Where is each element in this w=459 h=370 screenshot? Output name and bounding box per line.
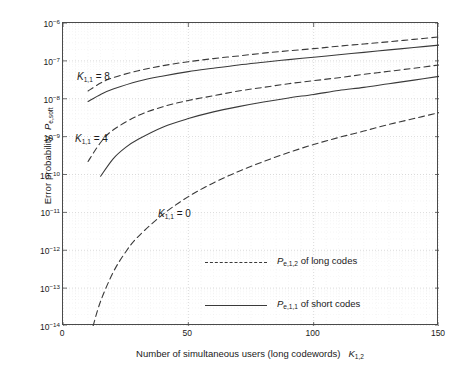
x-axis-label-subscript: 1,2 [355, 353, 364, 360]
annotation-k11-4: K1,1 = 4 [75, 133, 108, 145]
annotation-subscript: 1,1 [84, 76, 93, 83]
legend-text: of long codes [301, 255, 358, 266]
legend-subscript: e,1,1 [283, 303, 298, 310]
x-axis-label-text: Number of simultaneous users (long codew… [136, 348, 340, 359]
chart-svg [63, 23, 439, 326]
annotation-value: = 0 [177, 208, 191, 219]
y-tick-label: 10−13 [24, 282, 60, 294]
x-tick-label: 50 [167, 328, 207, 338]
annotation-symbol: K [158, 208, 165, 219]
legend-subscript: e,1,2 [283, 260, 298, 267]
y-tick-label: 10−9 [24, 131, 60, 143]
curve-dashed [88, 37, 439, 91]
x-axis-label: Number of simultaneous users (long codew… [62, 348, 438, 360]
legend-text: of short codes [301, 298, 361, 309]
plot-area: K1,1 = 8 K1,1 = 4 K1,1 = 0 Pe,1,2 of lon… [62, 22, 438, 325]
x-tick-label: 150 [418, 328, 458, 338]
y-tick-label: 10−8 [24, 93, 60, 105]
y-tick-label: 10−12 [24, 244, 60, 256]
y-tick-labels: 10−610−710−810−910−1010−1110−1210−1310−1… [16, 0, 60, 303]
annotation-symbol: K [75, 133, 82, 144]
y-tick-label: 10−7 [24, 55, 60, 67]
y-tick-label: 10−11 [24, 206, 60, 218]
annotation-symbol: K [77, 71, 84, 82]
legend-swatch-long-codes [205, 262, 267, 263]
annotation-subscript: 1,1 [82, 138, 91, 145]
x-tick-label: 100 [293, 328, 333, 338]
curve-solid [101, 76, 439, 176]
legend-label-short-codes: Pe,1,1 of short codes [277, 298, 360, 310]
annotation-k11-8: K1,1 = 8 [77, 71, 110, 83]
annotation-value: = 4 [94, 133, 108, 144]
y-tick-label: 10−6 [24, 17, 60, 29]
figure: Error probability Pe,soft 10−610−710−810… [0, 0, 459, 370]
grid-lines [63, 23, 439, 326]
y-tick-label: 10−10 [24, 169, 60, 181]
legend-swatch-short-codes [205, 305, 267, 306]
annotation-value: = 8 [96, 71, 110, 82]
legend-label-long-codes: Pe,1,2 of long codes [277, 255, 357, 267]
annotation-k11-0: K1,1 = 0 [158, 208, 191, 220]
x-tick-label: 0 [42, 328, 82, 338]
annotation-subscript: 1,1 [165, 213, 174, 220]
